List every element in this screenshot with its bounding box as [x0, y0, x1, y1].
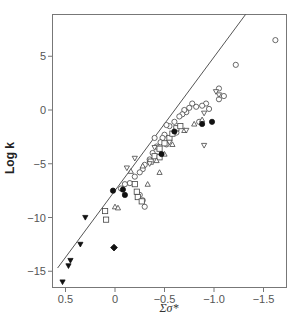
y-tick-label: 5 [40, 50, 46, 62]
data-point-circle-open [177, 114, 182, 119]
y-axis-title: Log k [3, 142, 17, 174]
data-point-triangle-down-filled [60, 280, 65, 285]
x-tick-label: 0 [112, 293, 118, 305]
data-point-circle-open [122, 182, 127, 187]
regression-line [58, 14, 246, 268]
data-point-triangle-down-open [202, 111, 207, 116]
y-tick-label: −15 [27, 265, 46, 277]
data-point-square-open [103, 208, 108, 213]
data-point-circle-filled [159, 151, 164, 156]
fit-line [58, 14, 246, 268]
x-tick-label: −1.5 [253, 293, 275, 305]
data-point-circle-open [137, 170, 142, 175]
data-point-triangle-up-open [145, 182, 150, 187]
data-point-triangle-up-open [157, 170, 162, 175]
x-axis-title: Σσ* [158, 301, 178, 315]
data-point-square-open [157, 146, 162, 151]
data-point-triangle-down-filled [68, 258, 73, 263]
data-point-circle-filled [172, 129, 177, 134]
x-tick-label: −1.0 [203, 293, 225, 305]
data-point-square-open [103, 217, 108, 222]
data-point-circle-filled [122, 192, 127, 197]
data-point-diamond-filled [111, 244, 118, 251]
data-point-square-open [134, 189, 139, 194]
scatter-chart: 50−5−10−15 0.50−0.5−1.0−1.5 Log k Σσ* [0, 0, 308, 318]
data-point-circle-filled [200, 121, 205, 126]
data-point-square-open [162, 141, 167, 146]
data-point-circle-filled [120, 187, 125, 192]
data-point-triangle-down-open [124, 166, 129, 171]
data-point-triangle-down-filled [66, 264, 71, 269]
y-tick-label: −5 [33, 158, 46, 170]
data-point-circle-open [221, 93, 226, 98]
data-point-triangle-down-open [216, 93, 221, 98]
data-point-circle-open [164, 122, 169, 127]
data-point-circle-open [233, 62, 238, 67]
data-point-triangle-up-open [192, 121, 197, 126]
y-axis-ticks: 50−5−10−15 [27, 50, 52, 277]
plot-frame [53, 15, 287, 288]
data-point-circle-filled [110, 188, 115, 193]
data-point-circle-open [273, 38, 278, 43]
data-point-square-open [132, 182, 137, 187]
data-point-circle-filled [209, 119, 214, 124]
data-point-square-open [178, 124, 183, 129]
data-point-circle-open [142, 204, 147, 209]
data-point-circle-open [200, 103, 205, 108]
data-point-square-open [139, 199, 144, 204]
x-tick-label: 0.5 [58, 293, 73, 305]
data-points [60, 38, 278, 285]
y-tick-label: 0 [40, 104, 46, 116]
data-point-triangle-down-open [202, 143, 207, 148]
data-point-circle-open [152, 135, 157, 140]
data-point-circle-open [172, 119, 177, 124]
data-point-triangle-down-filled [78, 242, 83, 247]
data-point-triangle-down-filled [83, 215, 88, 220]
y-tick-label: −10 [27, 212, 46, 224]
data-point-circle-open [127, 181, 132, 186]
data-point-triangle-down-open [132, 156, 137, 161]
data-point-circle-open [132, 174, 137, 179]
